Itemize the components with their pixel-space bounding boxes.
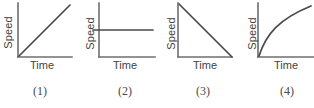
y-axis-label-4: Speed — [247, 8, 258, 60]
panel-caption-1: (1) — [7, 85, 73, 97]
data-curve-1 — [19, 5, 70, 56]
graph-panel-2: Speed Time (2) — [79, 0, 157, 108]
x-axis-label-3: Time — [172, 60, 238, 71]
data-curve-4 — [259, 6, 311, 56]
y-axis-label-3: Speed — [166, 8, 177, 60]
panel-caption-2: (2) — [92, 85, 158, 97]
y-axis-label-2: Speed — [85, 8, 96, 60]
graph-panel-1: Speed Time (1) — [0, 0, 78, 108]
y-axis-label-1: Speed — [3, 7, 14, 59]
graph-panel-4: Speed Time (4) — [239, 0, 314, 108]
x-axis-label-2: Time — [92, 60, 158, 71]
panel-caption-3: (3) — [170, 85, 236, 97]
x-axis-label-1: Time — [9, 60, 75, 71]
speed-time-graph-row: Speed Time (1) Speed Time (2) Speed Time… — [0, 0, 314, 108]
graph-panel-3: Speed Time (3) — [160, 0, 238, 108]
data-curve-3 — [179, 4, 232, 57]
x-axis-label-4: Time — [253, 60, 314, 71]
panel-caption-4: (4) — [254, 85, 314, 97]
